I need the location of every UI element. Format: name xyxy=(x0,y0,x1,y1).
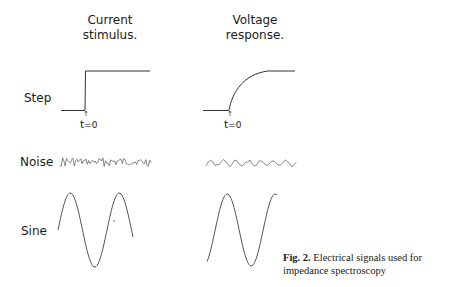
signal-traces xyxy=(0,0,470,287)
step-stimulus-trace xyxy=(61,71,150,111)
sine-stimulus-trace xyxy=(58,193,133,267)
figure-caption: Fig. 2. Electrical signals used for impe… xyxy=(283,251,463,277)
figure-2: Current stimulus. Voltage response. Step… xyxy=(0,0,470,287)
ink-speck xyxy=(113,220,115,222)
noise-stimulus-trace xyxy=(60,158,151,167)
step-response-trace xyxy=(203,71,295,111)
sine-response-trace xyxy=(207,194,277,266)
caption-number: Fig. 2. xyxy=(283,252,311,263)
noise-response-trace xyxy=(206,160,296,167)
